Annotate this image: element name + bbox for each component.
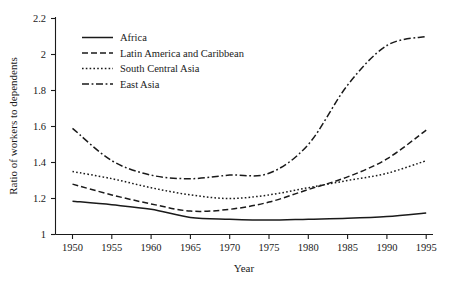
x-tick-label-1980: 1980 [298,242,319,253]
x-tick-label-1995: 1995 [416,242,437,253]
chart-figure: 1 1.2 1.4 1.6 1.8 2 2.2 1950 1955 1960 1… [0,0,455,282]
x-tick-label-1950: 1950 [62,242,83,253]
legend-label-east-asia: East Asia [120,79,160,90]
x-tick-label-1960: 1960 [141,242,162,253]
y-tick-label-2: 2 [41,49,46,60]
y-tick-label-1-2: 1.2 [33,193,46,204]
y-tick-label-1: 1 [41,229,46,240]
x-tick-label-1970: 1970 [219,242,240,253]
x-axis-title: Year [234,262,255,274]
y-axis-title: Ratio of workers to dependents [7,57,19,194]
x-tick-label-1965: 1965 [180,242,201,253]
y-tick-label-1-4: 1.4 [33,157,47,168]
x-tick-label-1975: 1975 [259,242,280,253]
legend-label-south-central-asia: South Central Asia [120,63,200,74]
x-tick-label-1990: 1990 [376,242,397,253]
y-tick-label-1-6: 1.6 [33,121,46,132]
legend-label-latin-america-and-caribbean: Latin America and Caribbean [120,48,245,59]
x-tick-label-1955: 1955 [101,242,122,253]
y-tick-label-1-8: 1.8 [33,85,46,96]
line-chart-canvas: 1 1.2 1.4 1.6 1.8 2 2.2 1950 1955 1960 1… [0,0,455,282]
y-tick-label-2-2: 2.2 [33,13,46,24]
chart-background [0,0,455,282]
x-tick-label-1985: 1985 [337,242,358,253]
legend-label-africa: Africa [120,32,147,43]
